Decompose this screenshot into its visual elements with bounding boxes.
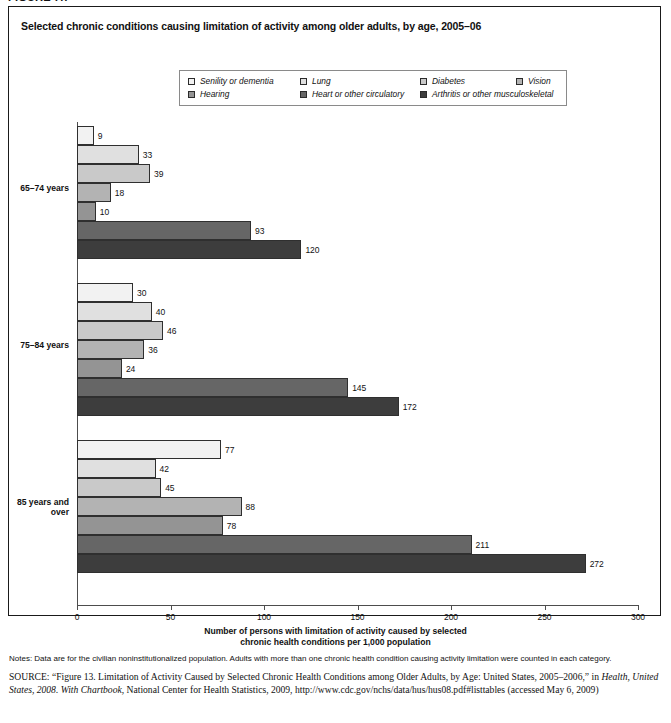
bar[interactable] — [77, 440, 221, 459]
legend-swatch-diabetes — [420, 78, 427, 85]
bar[interactable] — [77, 497, 242, 516]
bar-value-label: 33 — [139, 150, 152, 160]
bar-row: 272 — [77, 554, 638, 573]
bar-row: 78 — [77, 516, 638, 535]
bar-row: 33 — [77, 145, 638, 164]
bar-value-label: 45 — [161, 483, 174, 493]
legend-swatch-hearing — [188, 91, 195, 98]
legend-swatch-lung — [300, 78, 307, 85]
bar-value-label: 77 — [221, 445, 234, 455]
bar[interactable] — [77, 378, 348, 397]
bar-row: 24 — [77, 359, 638, 378]
legend-item-lung[interactable]: Lung — [300, 77, 420, 85]
bar[interactable] — [77, 321, 163, 340]
bar-row: 88 — [77, 497, 638, 516]
bar-value-label: 93 — [251, 226, 264, 236]
legend-swatch-arthritis-or-other-musculoskeletal — [420, 91, 427, 98]
bar-value-label: 9 — [94, 131, 103, 141]
figure-panel: Selected chronic conditions causing limi… — [8, 6, 661, 616]
bar[interactable] — [77, 554, 586, 573]
bar-value-label: 88 — [242, 502, 255, 512]
bar-row: 77 — [77, 440, 638, 459]
bar-row: 120 — [77, 240, 638, 259]
x-tick-label-100: 100 — [257, 612, 271, 622]
x-axis-title-line-2: chronic health conditions per 1,000 popu… — [0, 637, 671, 648]
x-tick-150 — [358, 605, 359, 610]
bar[interactable] — [77, 240, 301, 259]
bar[interactable] — [77, 183, 111, 202]
legend-label-diabetes: Diabetes — [432, 77, 465, 85]
y-axis-group-label-2: 75–84 years — [0, 340, 69, 350]
x-tick-label-0: 0 — [75, 612, 80, 622]
source-prefix: SOURCE — [9, 671, 47, 682]
bar-value-label: 78 — [223, 521, 236, 531]
bar-row: 36 — [77, 340, 638, 359]
x-tick-label-150: 150 — [350, 612, 364, 622]
bar-value-label: 42 — [156, 464, 169, 474]
bar-row: 45 — [77, 478, 638, 497]
legend-label-lung: Lung — [312, 77, 331, 85]
bar-value-label: 145 — [348, 383, 366, 393]
bar-value-label: 36 — [144, 345, 157, 355]
bar-value-label: 172 — [399, 402, 417, 412]
legend-swatch-heart-or-other-circulatory — [300, 91, 307, 98]
x-tick-100 — [264, 605, 265, 610]
legend-item-diabetes[interactable]: Diabetes — [420, 77, 516, 85]
x-tick-label-200: 200 — [444, 612, 458, 622]
legend-item-hearing[interactable]: Hearing — [188, 90, 300, 98]
figure-number-label: FIGURE 7.7 — [8, 0, 70, 3]
y-axis-group-label-1: 65–74 years — [0, 183, 69, 193]
chart-notes: Notes: Data are for the civilian noninst… — [9, 654, 664, 664]
legend-swatch-senility-or-dementia — [188, 78, 195, 85]
bar-row: 46 — [77, 321, 638, 340]
x-tick-250 — [545, 605, 546, 610]
source-part-2: , National Center for Health Statistics,… — [122, 684, 599, 695]
bar[interactable] — [77, 302, 152, 321]
x-tick-200 — [451, 605, 452, 610]
y-axis-group-label-3: 85 years and over — [0, 497, 69, 517]
bar-row: 42 — [77, 459, 638, 478]
x-axis-title: Number of persons with limitation of act… — [0, 626, 671, 648]
bar[interactable] — [77, 202, 96, 221]
legend-swatch-vision — [516, 78, 523, 85]
bar-row: 40 — [77, 302, 638, 321]
bar[interactable] — [77, 283, 133, 302]
bar-row: 39 — [77, 164, 638, 183]
legend-item-vision[interactable]: Vision — [516, 77, 551, 85]
bar[interactable] — [77, 164, 150, 183]
bar[interactable] — [77, 516, 223, 535]
bar-row: 211 — [77, 535, 638, 554]
bar-value-label: 39 — [150, 169, 163, 179]
bar-value-label: 10 — [96, 207, 109, 217]
bar[interactable] — [77, 535, 472, 554]
legend-item-arthritis-or-other-musculoskeletal[interactable]: Arthritis or other musculoskeletal — [420, 90, 553, 98]
x-tick-300 — [638, 605, 639, 610]
x-tick-50 — [171, 605, 172, 610]
legend-row-2: Hearing Heart or other circulatory Arthr… — [188, 88, 560, 101]
bar-row: 9 — [77, 126, 638, 145]
bar[interactable] — [77, 145, 139, 164]
bar-value-label: 46 — [163, 326, 176, 336]
x-axis-title-line-1: Number of persons with limitation of act… — [0, 626, 671, 637]
bar-row: 18 — [77, 183, 638, 202]
bar[interactable] — [77, 359, 122, 378]
bar-value-label: 211 — [472, 540, 490, 550]
bar-value-label: 30 — [133, 288, 146, 298]
bar[interactable] — [77, 478, 161, 497]
source-part-1: : “Figure 13. Limitation of Activity Cau… — [47, 671, 602, 682]
legend-item-heart-or-other-circulatory[interactable]: Heart or other circulatory — [300, 90, 420, 98]
bar-value-label: 120 — [301, 245, 319, 255]
bar[interactable] — [77, 459, 156, 478]
bar-value-label: 272 — [586, 559, 604, 569]
bar-row: 30 — [77, 283, 638, 302]
bar-value-label: 40 — [152, 307, 165, 317]
bar[interactable] — [77, 397, 399, 416]
bar[interactable] — [77, 126, 94, 145]
legend-label-senility-or-dementia: Senility or dementia — [200, 77, 274, 85]
x-tick-label-300: 300 — [631, 612, 645, 622]
legend-item-senility-or-dementia[interactable]: Senility or dementia — [188, 77, 300, 85]
bar-row: 145 — [77, 378, 638, 397]
chart-plot-area: 050100150200250300 65–74 years9333918109… — [69, 122, 649, 610]
bar[interactable] — [77, 221, 251, 240]
bar[interactable] — [77, 340, 144, 359]
